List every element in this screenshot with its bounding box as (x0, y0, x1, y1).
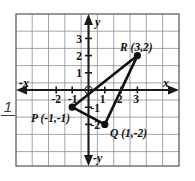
margin-page-mark: 1 (1, 99, 15, 116)
point-label-p: P (-1,-1) (31, 112, 70, 125)
x-tick-label-neg2: -2 (51, 93, 61, 105)
vertex-dot-r (134, 52, 141, 59)
coordinate-plane-figure: 1 (0, 0, 195, 181)
point-label-r: R (3,2) (119, 41, 153, 54)
x-tick-label-2: 2 (117, 93, 123, 105)
x-tick-label-1: 1 (100, 93, 106, 105)
y-tick-label-2: 2 (76, 50, 82, 62)
point-label-q: Q (1,-2) (110, 127, 147, 140)
y-tick-label-3: 3 (76, 33, 82, 45)
x-axis-positive-label: x (162, 76, 169, 90)
vertex-dot-q (101, 121, 108, 128)
x-tick-label-3: 3 (133, 93, 139, 105)
y-axis-negative-label: -y (93, 151, 103, 165)
x-tick-label-neg1: -1 (68, 93, 78, 105)
coordinate-grid-svg: -2 -1 1 2 3 3 2 1 -1 -2 -x x y -y R (3,2… (0, 0, 195, 181)
y-tick-label-neg2: -2 (90, 119, 100, 131)
y-tick-label-neg1: -1 (90, 102, 100, 114)
x-axis-negative-label: -x (19, 76, 29, 90)
y-axis-positive-label: y (93, 15, 101, 29)
y-tick-label-1: 1 (76, 67, 82, 79)
